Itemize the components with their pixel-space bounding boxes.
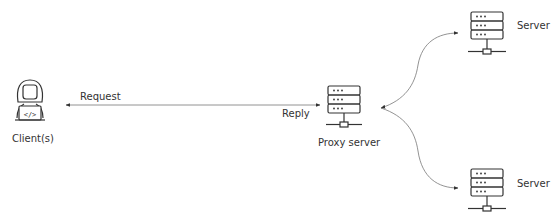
client-label: Client(s)	[12, 133, 54, 144]
client-icon: </>	[15, 80, 45, 120]
server-bottom-label: Server	[517, 178, 550, 189]
proxy-to-server-bottom-arrow	[381, 108, 458, 188]
reply-label: Reply	[282, 108, 310, 119]
request-label: Request	[80, 91, 121, 102]
server-top-icon	[468, 12, 506, 54]
proxy-server-label: Proxy server	[318, 137, 380, 148]
proxy-server-icon	[326, 86, 362, 127]
svg-text:</>: </>	[24, 111, 37, 119]
server-top-label: Server	[517, 20, 550, 31]
diagram-canvas: </>	[0, 0, 555, 224]
proxy-to-server-top-arrow	[381, 33, 458, 108]
server-bottom-icon	[468, 169, 506, 211]
